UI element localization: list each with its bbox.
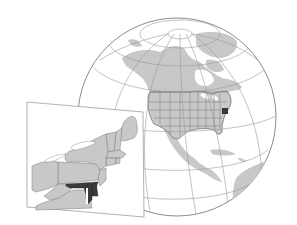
maryland-highlight-globe <box>222 108 228 114</box>
chesapeake-bay <box>86 188 88 204</box>
state-rhode-island <box>116 158 120 164</box>
inset-map <box>27 102 144 217</box>
